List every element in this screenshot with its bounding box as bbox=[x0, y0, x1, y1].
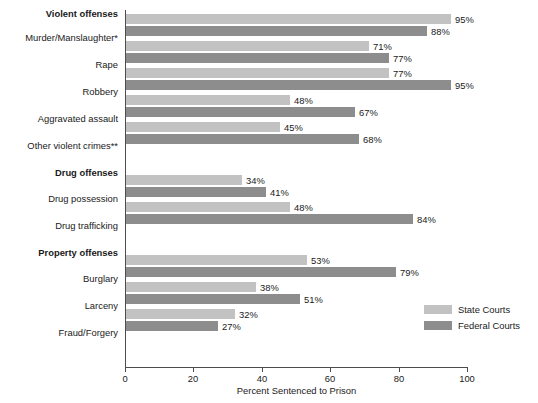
bar-drug-possession-federal bbox=[126, 187, 266, 197]
bar-aggravated-federal bbox=[126, 107, 355, 117]
value-aggravated-state: 48% bbox=[294, 95, 313, 105]
x-axis-line bbox=[125, 367, 468, 368]
bar-drug-trafficking-state bbox=[126, 202, 290, 212]
legend-swatch-federal-icon bbox=[424, 321, 452, 330]
row-label-murder: Murder/Manslaughter* bbox=[0, 33, 118, 43]
category-axis-labels: Violent offenses Murder/Manslaughter* Ra… bbox=[0, 0, 118, 368]
x-tick-label-100: 100 bbox=[447, 373, 487, 384]
x-tick-60 bbox=[330, 367, 331, 372]
value-other-violent-federal: 68% bbox=[363, 134, 382, 144]
bar-murder-state bbox=[126, 14, 451, 24]
bar-larceny-state bbox=[126, 282, 256, 292]
value-drug-possession-state: 34% bbox=[246, 175, 265, 185]
value-drug-trafficking-federal: 84% bbox=[417, 214, 436, 224]
bar-drug-trafficking-federal bbox=[126, 214, 413, 224]
x-tick-80 bbox=[399, 367, 400, 372]
bar-rape-federal bbox=[126, 53, 389, 63]
value-murder-federal: 88% bbox=[431, 26, 450, 36]
row-label-fraud: Fraud/Forgery bbox=[0, 328, 118, 338]
value-burglary-federal: 79% bbox=[400, 267, 419, 277]
value-fraud-federal: 27% bbox=[222, 321, 241, 331]
x-tick-40 bbox=[262, 367, 263, 372]
value-larceny-state: 38% bbox=[260, 282, 279, 292]
x-axis-title: Percent Sentenced to Prison bbox=[125, 385, 468, 396]
row-label-burglary: Burglary bbox=[0, 274, 118, 284]
legend-label-federal: Federal Courts bbox=[458, 319, 520, 332]
row-label-rape: Rape bbox=[0, 60, 118, 70]
legend-swatch-state-icon bbox=[424, 305, 452, 314]
bar-burglary-state bbox=[126, 255, 307, 265]
bar-drug-possession-state bbox=[126, 175, 242, 185]
x-tick-0 bbox=[125, 367, 126, 372]
value-larceny-federal: 51% bbox=[304, 294, 323, 304]
bar-murder-federal bbox=[126, 26, 427, 36]
bar-larceny-federal bbox=[126, 294, 300, 304]
value-fraud-state: 32% bbox=[239, 309, 258, 319]
value-drug-possession-federal: 41% bbox=[270, 187, 289, 197]
value-other-violent-state: 45% bbox=[284, 122, 303, 132]
value-murder-state: 95% bbox=[455, 14, 474, 24]
x-tick-label-0: 0 bbox=[105, 373, 145, 384]
bar-fraud-state bbox=[126, 309, 235, 319]
value-robbery-federal: 95% bbox=[455, 80, 474, 90]
row-label-drug-possession: Drug possession bbox=[0, 194, 118, 204]
bar-robbery-federal bbox=[126, 80, 451, 90]
row-label-aggravated: Aggravated assault bbox=[0, 114, 118, 124]
x-tick-label-60: 60 bbox=[310, 373, 350, 384]
row-label-other-violent: Other violent crimes** bbox=[0, 141, 118, 151]
group-heading-property: Property offenses bbox=[0, 248, 118, 258]
bar-robbery-state bbox=[126, 68, 389, 78]
group-heading-drug: Drug offenses bbox=[0, 168, 118, 178]
value-aggravated-federal: 67% bbox=[359, 107, 378, 117]
bar-other-violent-federal bbox=[126, 134, 359, 144]
value-drug-trafficking-state: 48% bbox=[294, 202, 313, 212]
x-tick-20 bbox=[193, 367, 194, 372]
bar-fraud-federal bbox=[126, 321, 218, 331]
group-heading-violent: Violent offenses bbox=[0, 9, 118, 19]
x-tick-label-20: 20 bbox=[173, 373, 213, 384]
x-tick-label-40: 40 bbox=[242, 373, 282, 384]
x-tick-100 bbox=[467, 367, 468, 372]
value-burglary-state: 53% bbox=[311, 255, 330, 265]
value-robbery-state: 77% bbox=[393, 68, 412, 78]
x-tick-label-80: 80 bbox=[379, 373, 419, 384]
row-label-drug-trafficking: Drug trafficking bbox=[0, 221, 118, 231]
legend-label-state: State Courts bbox=[458, 303, 510, 316]
row-label-robbery: Robbery bbox=[0, 87, 118, 97]
bar-burglary-federal bbox=[126, 267, 396, 277]
row-label-larceny: Larceny bbox=[0, 301, 118, 311]
value-rape-state: 71% bbox=[373, 41, 392, 51]
bar-aggravated-state bbox=[126, 95, 290, 105]
bar-rape-state bbox=[126, 41, 369, 51]
bar-other-violent-state bbox=[126, 122, 280, 132]
value-rape-federal: 77% bbox=[393, 53, 412, 63]
bar-chart: Violent offenses Murder/Manslaughter* Ra… bbox=[0, 0, 538, 403]
